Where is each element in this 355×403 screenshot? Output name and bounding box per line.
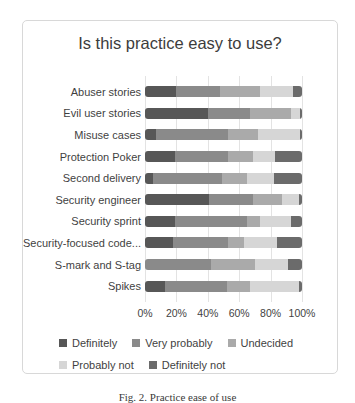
bar-stack <box>145 216 302 227</box>
legend-label: Definitely <box>72 337 117 349</box>
legend-row: Probably notDefinitely not <box>59 354 308 376</box>
bar-segment-definitely <box>145 237 173 248</box>
bar-segment-undecided <box>250 108 291 119</box>
bar-segment-very-probably <box>176 86 220 97</box>
category-label: Protection Poker <box>23 151 145 163</box>
bar-segment-very-probably <box>173 237 228 248</box>
bar-row: Abuser stories <box>23 81 337 103</box>
bar-segment-probably-not <box>247 173 274 184</box>
bar-segment-definitely <box>145 281 165 292</box>
chart: Is this practice easy to use? Abuser sto… <box>22 20 338 374</box>
category-label: Misuse cases <box>23 129 145 141</box>
bar-segment-definitely <box>145 173 153 184</box>
bar-row: Misuse cases <box>23 124 337 146</box>
bar-segment-definitely <box>145 151 175 162</box>
legend-item-probably-not: Probably not <box>59 359 134 371</box>
bar-segment-definitely-not <box>288 259 302 270</box>
bar-stack <box>145 108 302 119</box>
bar-row: S-mark and S-tag <box>23 254 337 276</box>
bar-segment-definitely <box>145 216 175 227</box>
legend-item-definitely-not: Definitely not <box>149 359 226 371</box>
legend-item-very-probably: Very probably <box>132 337 212 349</box>
bar-segment-probably-not <box>291 108 300 119</box>
figure-caption: Fig. 2. Practice ease of use <box>0 391 355 403</box>
legend-marker-icon <box>59 361 67 369</box>
bar-segment-very-probably <box>156 129 228 140</box>
bar-segment-definitely-not <box>274 173 302 184</box>
bar-stack <box>145 173 302 184</box>
bar-segment-definitely-not <box>291 216 302 227</box>
x-axis: 0%20%40%60%80%100% <box>145 307 302 321</box>
bar-row: Security engineer <box>23 189 337 211</box>
category-label: Second delivery <box>23 172 145 184</box>
x-tick-label: 20% <box>166 307 187 319</box>
bar-stack <box>145 281 302 292</box>
legend-label: Probably not <box>72 359 134 371</box>
bar-segment-undecided <box>222 173 247 184</box>
legend-item-undecided: Undecided <box>228 337 294 349</box>
bar-stack <box>145 151 302 162</box>
bar-segment-undecided <box>228 237 244 248</box>
bar-segment-definitely-not <box>299 281 302 292</box>
bar-stack <box>145 194 302 205</box>
bar-segment-definitely-not <box>299 194 302 205</box>
bar-segment-definitely-not <box>275 151 302 162</box>
bar-row: Security-focused code... <box>23 232 337 254</box>
category-label: Security sprint <box>23 215 145 227</box>
legend-label: Definitely not <box>162 359 226 371</box>
bar-segment-definitely <box>145 194 209 205</box>
bar-segment-definitely-not <box>300 108 302 119</box>
bar-segment-undecided <box>253 194 281 205</box>
bar-segment-undecided <box>220 86 259 97</box>
bar-stack <box>145 237 302 248</box>
bar-segment-very-probably <box>153 173 222 184</box>
bar-segment-probably-not <box>258 129 300 140</box>
bar-segment-probably-not <box>260 216 291 227</box>
bar-segment-very-probably <box>208 108 250 119</box>
legend-marker-icon <box>59 339 67 347</box>
x-tick-label: 40% <box>197 307 218 319</box>
bar-row: Evil user stories <box>23 103 337 125</box>
bar-segment-probably-not <box>260 86 293 97</box>
bar-segment-undecided <box>227 281 251 292</box>
bar-stack <box>145 259 302 270</box>
x-tick-label: 80% <box>260 307 281 319</box>
bar-segment-definitely-not <box>293 86 302 97</box>
bar-row: Second delivery <box>23 167 337 189</box>
bar-segment-definitely <box>145 129 156 140</box>
x-tick-label: 60% <box>229 307 250 319</box>
bar-segment-probably-not <box>250 281 299 292</box>
legend-marker-icon <box>228 339 236 347</box>
legend-row: DefinitelyVery probablyUndecided <box>59 332 308 354</box>
bar-segment-undecided <box>228 129 258 140</box>
legend-marker-icon <box>132 339 140 347</box>
bar-segment-very-probably <box>209 194 253 205</box>
legend-label: Undecided <box>241 337 294 349</box>
bar-segment-very-probably <box>175 151 228 162</box>
bar-segment-very-probably <box>175 216 247 227</box>
legend-marker-icon <box>149 361 157 369</box>
x-tick-label: 0% <box>137 307 152 319</box>
x-tick-label: 100% <box>289 307 316 319</box>
bar-segment-probably-not <box>253 151 275 162</box>
figure: Is this practice easy to use? Abuser sto… <box>0 0 355 403</box>
bar-stack <box>145 129 302 140</box>
bar-segment-probably-not <box>282 194 299 205</box>
legend-item-definitely: Definitely <box>59 337 117 349</box>
category-label: Security engineer <box>23 194 145 206</box>
chart-title: Is this practice easy to use? <box>23 34 337 53</box>
bar-segment-probably-not <box>255 259 288 270</box>
bar-segment-definitely <box>145 108 208 119</box>
bar-row: Protection Poker <box>23 146 337 168</box>
bar-segment-undecided <box>228 151 253 162</box>
bar-segment-definitely <box>145 86 176 97</box>
legend-label: Very probably <box>145 337 212 349</box>
category-label: Evil user stories <box>23 107 145 119</box>
legend: DefinitelyVery probablyUndecidedProbably… <box>59 332 308 376</box>
bar-segment-very-probably <box>165 281 226 292</box>
bar-row: Security sprint <box>23 211 337 233</box>
bar-segment-definitely-not <box>277 237 302 248</box>
category-label: Security-focused code... <box>23 237 145 249</box>
bar-segment-undecided <box>211 259 255 270</box>
category-label: Spikes <box>23 280 145 292</box>
